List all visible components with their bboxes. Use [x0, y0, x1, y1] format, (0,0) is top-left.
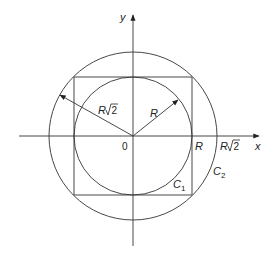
- svg-text:2: 2: [112, 105, 118, 116]
- y-axis-label: y: [119, 11, 127, 23]
- svg-text:2: 2: [234, 141, 240, 152]
- inner-radius-label: R: [150, 107, 158, 119]
- x-tick-r-sqrt2: R 2: [220, 140, 240, 152]
- radius-arrow-r-sqrt2: [60, 95, 133, 136]
- geometry-diagram: y x 0 R R 2 R R 2 C 1 C 2: [0, 0, 279, 260]
- origin-label: 0: [122, 141, 128, 152]
- label-c2: C 2: [213, 165, 226, 180]
- svg-text:1: 1: [181, 184, 186, 193]
- x-tick-r: R: [195, 140, 203, 152]
- x-axis-label: x: [254, 140, 261, 152]
- svg-text:C: C: [213, 165, 221, 177]
- svg-text:C: C: [173, 178, 181, 190]
- label-c1: C 1: [173, 178, 186, 193]
- svg-text:R: R: [220, 140, 228, 152]
- outer-radius-label: R 2: [98, 104, 118, 116]
- svg-text:2: 2: [221, 171, 226, 180]
- svg-text:R: R: [98, 104, 106, 116]
